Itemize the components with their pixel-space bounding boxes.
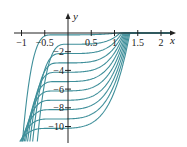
y-tick-label: −8 (53, 102, 64, 113)
y-axis-label: y (72, 10, 78, 22)
y-tick-label: −4 (53, 65, 64, 76)
x-tick-label: 2 (159, 37, 164, 48)
solution-curve (24, 33, 172, 141)
x-tick-label: −1 (16, 37, 27, 48)
solution-curve (23, 33, 173, 141)
x-tick-label: 0.5 (85, 37, 98, 48)
x-tick-label: −0.5 (36, 37, 54, 48)
y-axis-arrow-icon (66, 13, 71, 19)
solution-curves (20, 33, 173, 141)
x-tick-label: 1 (112, 37, 117, 48)
axes: −1−0.50.511.52 −2−4−6−8−10 x y (14, 10, 176, 143)
x-axis-label: x (169, 34, 175, 46)
y-tick-label: −2 (53, 46, 64, 57)
y-tick-label: −6 (53, 84, 64, 95)
x-tick-label: 1.5 (132, 37, 145, 48)
solution-curve (20, 33, 173, 141)
solution-curves-chart: −1−0.50.511.52 −2−4−6−8−10 x y (0, 0, 187, 147)
solution-curve (22, 33, 172, 141)
y-tick-label: −10 (48, 121, 64, 132)
